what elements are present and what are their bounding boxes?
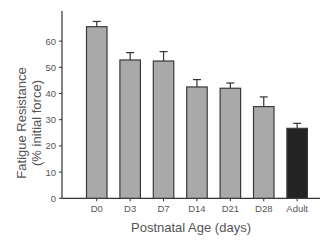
bar-rect	[87, 27, 108, 199]
bar-rect	[220, 88, 241, 198]
x-axis: D0D3D7D14D21D28Adult	[62, 198, 320, 214]
y-axis-title: Fatigue Resistance (% initial force)	[14, 67, 44, 178]
bar-chart: 0102030405060 D0D3D7D14D21D28Adult Postn…	[0, 0, 330, 243]
bar-d0	[87, 21, 108, 198]
x-tick-label: D3	[124, 203, 136, 214]
bar-rect	[287, 128, 308, 198]
y-axis-title-line1: Fatigue Resistance	[14, 67, 29, 178]
bar-d14	[187, 80, 208, 199]
x-tick-label: D7	[157, 203, 169, 214]
bar-d7	[153, 52, 174, 199]
x-tick-label: Adult	[286, 203, 308, 214]
bar-rect	[254, 107, 275, 199]
y-axis-title-line2: (% initial force)	[29, 80, 44, 166]
x-tick-label: D14	[188, 203, 205, 214]
bar-d28	[254, 97, 275, 198]
bar-adult	[287, 123, 308, 198]
bar-d21	[220, 83, 241, 198]
bar-rect	[120, 60, 140, 198]
y-tick-label: 0	[51, 193, 56, 204]
y-tick-label: 20	[45, 140, 56, 151]
bar-d3	[120, 53, 140, 199]
y-tick-label: 60	[45, 36, 56, 47]
y-tick-label: 10	[45, 167, 56, 178]
y-tick-label: 30	[45, 114, 56, 125]
y-tick-label: 50	[45, 62, 56, 73]
x-tick-label: D21	[222, 203, 239, 214]
x-tick-label: D0	[91, 203, 103, 214]
y-tick-label: 40	[45, 88, 56, 99]
bar-rect	[187, 87, 208, 198]
bars	[87, 21, 308, 198]
x-axis-title: Postnatal Age (days)	[131, 220, 251, 235]
y-axis: 0102030405060	[45, 11, 62, 204]
x-tick-label: D28	[255, 203, 272, 214]
bar-rect	[153, 61, 174, 198]
